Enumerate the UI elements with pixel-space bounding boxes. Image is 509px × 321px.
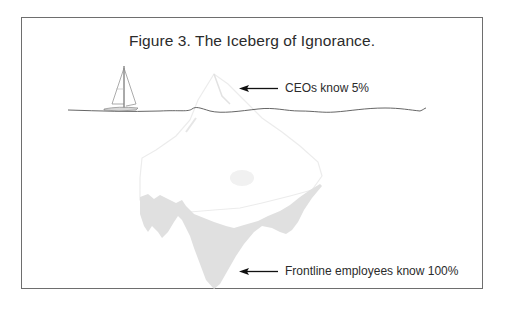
arrow-icon (239, 85, 278, 92)
ceo-annotation: CEOs know 5% (285, 81, 369, 95)
iceberg-icon (140, 74, 322, 289)
frontline-annotation: Frontline employees know 100% (285, 264, 458, 278)
arrow-icon (239, 268, 278, 275)
sailboat-icon (104, 66, 138, 111)
